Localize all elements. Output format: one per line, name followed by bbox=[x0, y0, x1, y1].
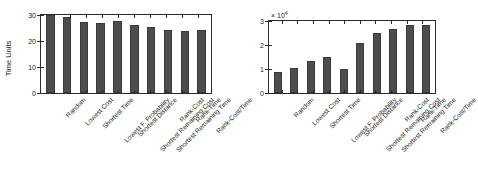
x-axis-tick-top bbox=[282, 21, 283, 24]
bar bbox=[422, 25, 430, 93]
y-axis-tick-inner bbox=[269, 93, 272, 94]
bar bbox=[307, 61, 315, 93]
y-axis-tick-inner bbox=[41, 15, 44, 16]
y-axis-tick-label: 0 bbox=[260, 90, 264, 97]
x-axis-tick bbox=[70, 90, 71, 93]
x-axis-tick bbox=[344, 90, 345, 93]
category-label: Shortest Remaining Time bbox=[175, 96, 232, 153]
x-axis-tick-top bbox=[118, 15, 119, 18]
category-label: Lowest F. Probability bbox=[123, 96, 171, 144]
bar bbox=[373, 33, 381, 93]
category-label: Random bbox=[64, 96, 87, 119]
y-axis-tick-inner bbox=[269, 21, 272, 22]
category-label: Rank-Time bbox=[194, 96, 222, 124]
category-label: Shortest Distance bbox=[136, 96, 178, 138]
x-axis-tick-top bbox=[329, 21, 330, 24]
x-axis-tick bbox=[118, 90, 119, 93]
y-axis-tick-label: 0 bbox=[32, 90, 36, 97]
x-axis-tick-top bbox=[70, 15, 71, 18]
x-axis-tick-top bbox=[150, 15, 151, 18]
x-axis-tick bbox=[102, 90, 103, 93]
x-axis-tick bbox=[282, 90, 283, 93]
x-axis-tick bbox=[297, 90, 298, 93]
category-label: Rank-Cost/Time bbox=[439, 96, 477, 134]
right-y-axis-exponent-power: 4 bbox=[285, 10, 288, 16]
category-label: Rank-Cost bbox=[403, 96, 430, 123]
x-axis-tick-top bbox=[313, 21, 314, 24]
x-axis-tick-top bbox=[86, 15, 87, 18]
y-axis-tick-inner bbox=[41, 41, 44, 42]
x-axis-tick bbox=[150, 90, 151, 93]
x-axis-tick-top bbox=[391, 21, 392, 24]
bar bbox=[130, 25, 139, 93]
right-chart-plot-area bbox=[269, 21, 435, 93]
y-axis-tick-label: 30 bbox=[28, 12, 36, 19]
left-chart-panel: Time Units 0102030 RandomLowest CostShor… bbox=[0, 0, 228, 188]
bar bbox=[356, 43, 364, 93]
category-label: Lowest F. Probability bbox=[349, 96, 397, 144]
x-axis-tick bbox=[166, 90, 167, 93]
right-y-axis-exponent: × 104 bbox=[271, 10, 288, 19]
x-axis-tick bbox=[375, 90, 376, 93]
bar bbox=[274, 72, 282, 93]
category-label: Rank-Cost bbox=[178, 96, 205, 123]
bar bbox=[147, 27, 156, 93]
category-label: Shortest Time bbox=[101, 96, 135, 130]
y-axis-tick-label: 1 bbox=[260, 66, 264, 73]
x-axis-tick bbox=[54, 90, 55, 93]
x-axis-tick-top bbox=[166, 15, 167, 18]
x-axis-tick bbox=[134, 90, 135, 93]
bar bbox=[46, 15, 55, 93]
x-axis-tick bbox=[329, 90, 330, 93]
category-label: Shortest Distance bbox=[362, 96, 404, 138]
x-axis-tick-top bbox=[198, 15, 199, 18]
bar bbox=[181, 31, 190, 93]
x-axis-tick bbox=[360, 90, 361, 93]
right-chart-panel: × 104 0123 RandomLowest CostShortest Tim… bbox=[228, 0, 456, 188]
category-label: Rank-Time bbox=[419, 96, 447, 124]
left-chart-plot-area bbox=[41, 15, 211, 93]
x-axis-tick-top bbox=[54, 15, 55, 18]
bar bbox=[80, 22, 89, 93]
x-axis-tick bbox=[198, 90, 199, 93]
right-chart-axes: × 104 0123 bbox=[268, 20, 436, 94]
y-axis-tick-inner bbox=[269, 45, 272, 46]
x-axis-tick-top bbox=[375, 21, 376, 24]
x-axis-tick-top bbox=[360, 21, 361, 24]
y-axis-tick-label: 20 bbox=[28, 38, 36, 45]
right-y-axis-exponent-prefix: × 10 bbox=[271, 12, 285, 19]
bar bbox=[63, 17, 72, 93]
x-axis-tick-top bbox=[422, 21, 423, 24]
x-axis-tick-top bbox=[407, 21, 408, 24]
bar bbox=[406, 25, 414, 93]
bar bbox=[164, 30, 173, 94]
x-axis-tick-top bbox=[102, 15, 103, 18]
y-axis-tick-label: 3 bbox=[260, 18, 264, 25]
x-axis-tick-top bbox=[297, 21, 298, 24]
bar bbox=[389, 29, 397, 93]
category-label: Lowest Cost bbox=[311, 96, 342, 127]
bar bbox=[96, 23, 105, 93]
y-axis-tick-inner bbox=[269, 69, 272, 70]
y-axis-tick-inner bbox=[41, 93, 44, 94]
y-axis-tick-label: 2 bbox=[260, 42, 264, 49]
left-chart-axes: 0102030 bbox=[40, 14, 212, 94]
x-axis-tick bbox=[422, 90, 423, 93]
bar bbox=[197, 30, 206, 93]
y-axis-tick-label: 10 bbox=[28, 64, 36, 71]
category-label: Shortest Remaining Cost bbox=[158, 96, 215, 153]
category-label: Lowest Cost bbox=[84, 96, 115, 127]
bar bbox=[323, 57, 331, 93]
x-axis-tick bbox=[407, 90, 408, 93]
x-axis-tick bbox=[86, 90, 87, 93]
category-label: Shortest Time bbox=[328, 96, 362, 130]
y-axis-tick-inner bbox=[41, 67, 44, 68]
x-axis-tick-top bbox=[182, 15, 183, 18]
category-label: Shortest Remaining Cost bbox=[384, 96, 441, 153]
category-label: Random bbox=[292, 96, 315, 119]
x-axis-tick bbox=[182, 90, 183, 93]
x-axis-tick-top bbox=[344, 21, 345, 24]
bar bbox=[113, 21, 122, 93]
left-y-axis-title: Time Units bbox=[4, 41, 13, 77]
